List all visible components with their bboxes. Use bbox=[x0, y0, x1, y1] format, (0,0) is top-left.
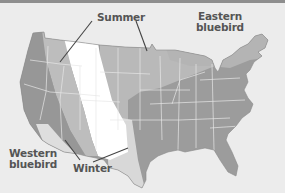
zone-eastern-summer-north bbox=[160, 30, 285, 68]
label-eastern-line2: bluebird bbox=[196, 22, 244, 33]
summer-leader-east bbox=[136, 21, 147, 51]
label-winter: Winter bbox=[73, 163, 112, 174]
label-summer: Summer bbox=[97, 12, 145, 23]
label-western-line2: bluebird bbox=[9, 159, 57, 170]
label-western-bluebird: Western bluebird bbox=[9, 148, 57, 170]
label-eastern-bluebird: Eastern bluebird bbox=[196, 11, 244, 33]
